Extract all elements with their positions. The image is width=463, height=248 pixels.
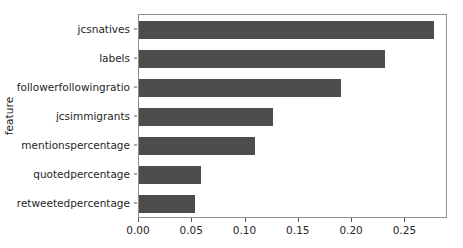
y-axis-tick-mark xyxy=(134,86,138,87)
x-axis-tick-mark xyxy=(138,218,139,222)
y-axis-title: feature xyxy=(3,97,15,136)
x-axis-tick-mark xyxy=(191,218,192,222)
y-axis-tick-label: jcsnatives xyxy=(78,23,130,35)
bar-chart-figure: feature jcsnativeslabelsfollowerfollowin… xyxy=(0,0,463,248)
bar xyxy=(139,195,195,213)
bar xyxy=(139,21,434,39)
x-axis-tick-mark xyxy=(404,218,405,222)
y-axis-tick-labels: jcsnativeslabelsfollowerfollowingratiojc… xyxy=(18,14,134,218)
y-axis-tick-mark xyxy=(134,174,138,175)
bar xyxy=(139,50,385,68)
x-axis-tick-label: 0.00 xyxy=(126,224,149,236)
plot-area xyxy=(138,14,447,218)
bar xyxy=(139,137,255,155)
bar xyxy=(139,108,273,126)
y-axis-tick-mark xyxy=(134,203,138,204)
y-axis-tick-label: retweetedpercentage xyxy=(17,197,130,209)
y-axis-tick-label: mentionspercentage xyxy=(21,139,130,151)
y-axis-tick-mark xyxy=(134,28,138,29)
y-axis-tick-mark xyxy=(134,145,138,146)
x-axis-tick-label: 0.10 xyxy=(233,224,256,236)
x-axis-tick-mark xyxy=(351,218,352,222)
x-axis-tick-label: 0.25 xyxy=(393,224,416,236)
bar xyxy=(139,166,201,184)
x-axis-tick-label: 0.20 xyxy=(339,224,362,236)
x-axis-tick-mark xyxy=(245,218,246,222)
y-axis-tick-mark xyxy=(134,116,138,117)
y-axis-tick-label: jcsimmigrants xyxy=(56,110,130,122)
y-axis-tick-label: labels xyxy=(99,52,130,64)
x-axis-tick-mark xyxy=(298,218,299,222)
y-axis-title-container: feature xyxy=(0,0,18,232)
x-axis-tick-label: 0.15 xyxy=(286,224,309,236)
x-axis-ticks: 0.000.050.100.150.200.25 xyxy=(138,218,447,244)
y-axis-tick-label: followerfollowingratio xyxy=(17,81,130,93)
y-axis-tick-mark xyxy=(134,57,138,58)
x-axis-tick-label: 0.05 xyxy=(180,224,203,236)
y-axis-tick-label: quotedpercentage xyxy=(33,168,130,180)
bar xyxy=(139,79,341,97)
